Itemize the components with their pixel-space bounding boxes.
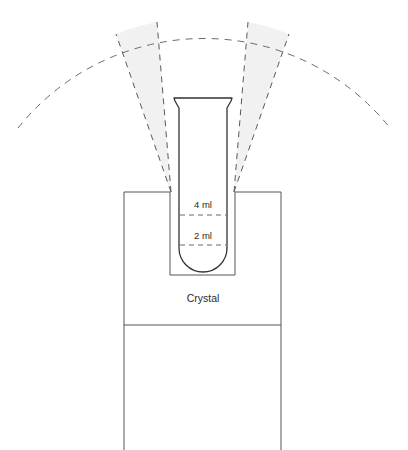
label-2ml: 2 ml [194,230,212,241]
crystal-well-diagram: 4 ml 2 ml Crystal [0,0,408,450]
detection-wedges [116,22,289,192]
detection-arc [18,38,390,128]
diagram-canvas: 4 ml 2 ml Crystal [0,0,408,450]
left-wedge-shading [116,22,171,192]
right-wedge-shading [234,22,289,192]
test-tube-outline [174,98,232,272]
label-crystal: Crystal [187,292,220,304]
label-4ml: 4 ml [194,199,212,210]
